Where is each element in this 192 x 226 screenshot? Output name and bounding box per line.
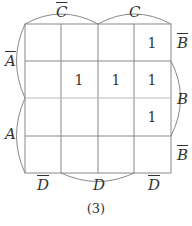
- cell-0-1: [61, 24, 97, 61]
- cell-1-1: 1: [61, 61, 97, 98]
- label-b: B: [177, 92, 188, 107]
- cell-1-0: [25, 61, 61, 98]
- label-c-bar: C: [56, 5, 67, 20]
- cell-3-3: [134, 136, 170, 173]
- label-b-bar-bottom: B: [177, 148, 188, 163]
- label-d: D: [93, 178, 105, 193]
- label-d-bar-left: D: [37, 178, 49, 193]
- caption: (3): [0, 201, 192, 216]
- cell-2-2: [98, 98, 134, 135]
- cell-3-0: [25, 136, 61, 173]
- cell-3-2: [98, 136, 134, 173]
- cell-1-2: 1: [98, 61, 134, 98]
- label-c: C: [129, 5, 140, 20]
- cell-3-1: [61, 136, 97, 173]
- cell-2-3: 1: [134, 98, 170, 135]
- cell-2-0: [25, 98, 61, 135]
- label-a: A: [5, 127, 16, 142]
- label-a-bar: A: [5, 54, 16, 69]
- cell-0-3: 1: [134, 24, 170, 61]
- label-d-bar-right: D: [148, 178, 160, 193]
- label-b-bar-top: B: [177, 36, 188, 51]
- cell-0-0: [25, 24, 61, 61]
- cell-0-2: [98, 24, 134, 61]
- cell-2-1: [61, 98, 97, 135]
- cell-1-3: 1: [134, 61, 170, 98]
